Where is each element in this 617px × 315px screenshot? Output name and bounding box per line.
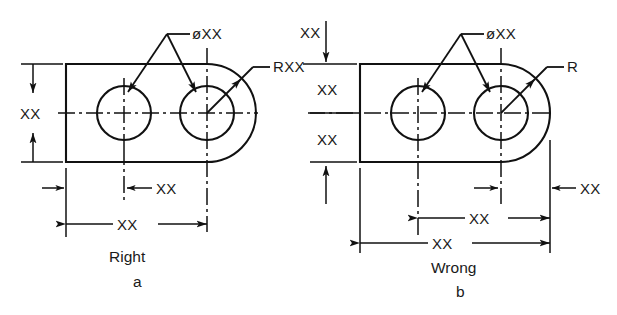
label-hole-to-hole-b: XX [469, 210, 490, 227]
caption-letter-a: a [133, 273, 142, 290]
label-upper-half-b: XX [317, 81, 338, 98]
label-diameter-b: øXX [486, 25, 516, 42]
label-lower-half-b: XX [317, 131, 338, 148]
label-radius-b: R [567, 58, 578, 75]
label-diameter-a: øXX [192, 25, 222, 42]
caption-verdict-b: Wrong [431, 259, 476, 276]
leader-radius-b [501, 67, 564, 113]
label-hole-offset-a: XX [156, 180, 177, 197]
caption-verdict-a: Right [109, 248, 146, 265]
label-radius-a: RXX [273, 58, 305, 75]
panel-b: øXX R XX XX XX [300, 21, 601, 300]
dimension-lower-half-b [310, 162, 357, 204]
label-overall-length-b: XX [432, 235, 453, 252]
drawing-canvas: øXX RXX XX [0, 0, 617, 315]
label-overall-length-a: XX [117, 216, 138, 233]
label-height-a: XX [20, 105, 41, 122]
label-top-height-b: XX [300, 24, 321, 41]
technical-drawing-figure: øXX RXX XX [0, 0, 617, 315]
panel-a: øXX RXX XX [20, 25, 305, 290]
caption-letter-b: b [456, 283, 465, 300]
leader-radius-a [207, 67, 270, 113]
label-edge-offset-b: XX [580, 180, 601, 197]
